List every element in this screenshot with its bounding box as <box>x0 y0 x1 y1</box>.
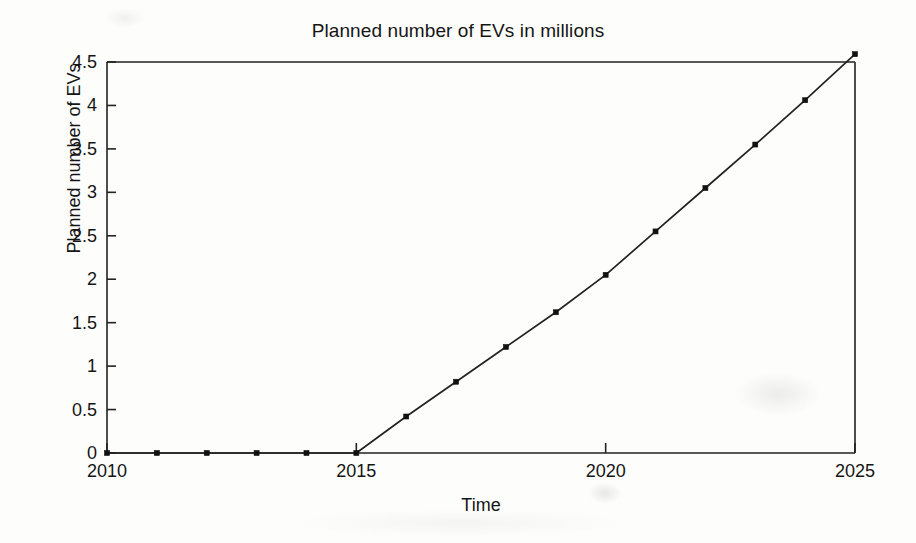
chart-page: Planned number of EVs in millions Planne… <box>0 0 916 543</box>
data-point-marker <box>454 379 459 384</box>
data-point-marker <box>304 451 309 456</box>
x-tick-label: 2015 <box>311 461 401 482</box>
data-point-marker <box>553 310 558 315</box>
y-axis-ticks <box>107 62 116 453</box>
data-point-marker <box>803 98 808 103</box>
data-point-marker <box>703 185 708 190</box>
data-point-marker <box>653 229 658 234</box>
y-tick-label: 1.5 <box>35 312 97 333</box>
x-axis-ticks <box>107 443 855 453</box>
data-point-marker <box>853 52 858 57</box>
y-tick-label: 1 <box>35 356 97 377</box>
y-tick-label: 3 <box>35 182 97 203</box>
data-point-marker <box>753 142 758 147</box>
data-point-marker <box>204 451 209 456</box>
y-tick-label: 3.5 <box>35 138 97 159</box>
y-tick-label: 2 <box>35 269 97 290</box>
x-tick-label: 2020 <box>561 461 651 482</box>
axis-frame <box>107 62 855 453</box>
data-point-marker <box>254 451 259 456</box>
data-point-marker <box>603 272 608 277</box>
y-tick-label: 4 <box>35 95 97 116</box>
x-tick-label: 2010 <box>62 461 152 482</box>
data-point-marker <box>154 451 159 456</box>
data-series-markers <box>105 52 858 456</box>
data-point-marker <box>503 345 508 350</box>
data-point-marker <box>404 414 409 419</box>
data-point-marker <box>354 451 359 456</box>
data-series-line <box>107 54 855 453</box>
x-axis-title: Time <box>107 495 855 516</box>
y-tick-label: 0.5 <box>35 399 97 420</box>
y-tick-label: 4.5 <box>35 52 97 73</box>
data-point-marker <box>105 451 110 456</box>
x-tick-label: 2025 <box>810 461 900 482</box>
y-tick-label: 2.5 <box>35 225 97 246</box>
